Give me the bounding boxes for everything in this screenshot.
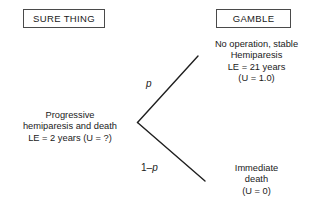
node-bottom-outcome-label: Immediate death (U = 0) (205, 163, 308, 197)
probability-lower-prefix: 1– (141, 162, 152, 173)
node-top-line-2: Hemiparesis (196, 50, 317, 61)
node-root-label: Progressive hemiparesis and death LE = 2… (4, 110, 136, 144)
node-top-line-3: LE = 21 years (196, 62, 317, 73)
node-bottom-line-1: Immediate (205, 163, 308, 174)
probability-lower-symbol: p (152, 162, 158, 173)
node-top-line-4: (U = 1.0) (196, 73, 317, 84)
node-root-line-2: hemiparesis and death (4, 121, 136, 132)
node-root-line-1: Progressive (4, 110, 136, 121)
probability-label-upper: p (146, 78, 152, 89)
node-bottom-line-2: death (205, 174, 308, 185)
node-top-line-1: No operation, stable (196, 39, 317, 50)
probability-upper-symbol: p (146, 78, 152, 89)
node-root-line-3: LE = 2 years (U = ?) (4, 133, 136, 144)
decision-tree-diagram: SURE THING GAMBLE Progressive hemiparesi… (0, 0, 317, 207)
node-bottom-line-3: (U = 0) (205, 186, 308, 197)
branch-line-upper (138, 56, 199, 123)
probability-label-lower: 1–p (141, 162, 158, 173)
node-top-outcome-label: No operation, stable Hemiparesis LE = 21… (196, 39, 317, 85)
